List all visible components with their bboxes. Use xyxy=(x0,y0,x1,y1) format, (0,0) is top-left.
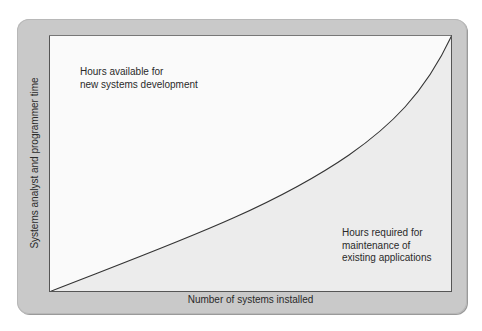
available-hours-label: Hours available for new systems developm… xyxy=(80,66,198,91)
available-label-line: new systems development xyxy=(80,79,198,92)
maintenance-hours-label: Hours required for maintenance of existi… xyxy=(342,227,432,265)
maintenance-label-line: maintenance of xyxy=(342,240,432,253)
maintenance-label-line: Hours required for xyxy=(342,227,432,240)
y-axis-label: Systems analyst and programmer time xyxy=(29,77,40,248)
x-axis-label: Number of systems installed xyxy=(49,294,452,305)
available-label-line: Hours available for xyxy=(80,66,198,79)
maintenance-label-line: existing applications xyxy=(342,252,432,265)
